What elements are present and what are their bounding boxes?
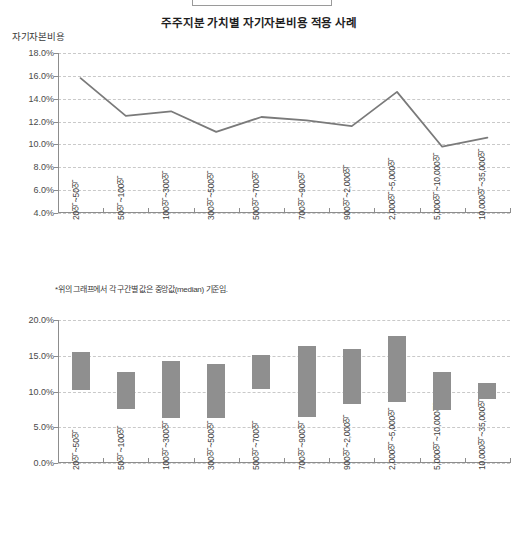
gridline (58, 356, 510, 357)
y-axis-tick-label: 12.0% (28, 117, 54, 127)
range-bar (298, 346, 316, 417)
gridline (58, 320, 510, 321)
range-bar (343, 349, 361, 404)
x-axis-tick-mark (329, 458, 330, 463)
x-axis-category-label: 50억~100억 (115, 425, 127, 470)
x-axis-category-label: 5,000억~10,000억 (431, 403, 443, 470)
x-axis-tick-mark (465, 458, 466, 463)
x-axis-category-label: 300억~500억 (205, 420, 217, 470)
y-axis-line (58, 320, 59, 463)
x-axis-category-label: 500억~700억 (250, 420, 262, 470)
y-axis-tick-label: 14.0% (28, 94, 54, 104)
range-bar (433, 372, 451, 410)
y-axis-tick-label: 10.0% (28, 387, 54, 397)
x-axis-tick-mark (510, 458, 511, 463)
line-chart-plot-area: 18.0%16.0%14.0%12.0%10.0%8.0%6.0%4.0%20억… (58, 53, 510, 213)
line-chart: 18.0%16.0%14.0%12.0%10.0%8.0%6.0%4.0%20억… (58, 53, 510, 213)
x-axis-category-label: 700억~900억 (296, 420, 308, 470)
x-axis-tick-mark (239, 458, 240, 463)
x-axis-tick-mark (374, 458, 375, 463)
x-axis-category-label: 900억~2,000억 (341, 414, 353, 470)
range-bar (478, 383, 496, 399)
y-axis-tick-label: 20.0% (28, 315, 54, 325)
y-axis-tick-label: 0.0% (33, 458, 54, 468)
range-bar (207, 364, 225, 418)
y-axis-tick-label: 4.0% (33, 208, 54, 218)
x-axis-category-label: 10,000억~35,000억 (476, 398, 488, 470)
range-bar (388, 336, 406, 402)
x-axis-category-label: 100억~300억 (160, 420, 172, 470)
clipped-top-box (192, 0, 332, 6)
range-bar (252, 355, 270, 389)
y-axis-tick-label: 5.0% (33, 422, 54, 432)
footnote-text: *위의 그래프에서 각 구간별 값은 중앙값(median) 기준임. (55, 283, 228, 294)
x-axis-category-label: 20억~50억 (70, 430, 82, 470)
y-axis-tick-label: 6.0% (33, 185, 54, 195)
range-bar (117, 372, 135, 408)
y-axis-tick-label: 18.0% (28, 48, 54, 58)
y-axis-tick-label: 15.0% (28, 351, 54, 361)
range-bar (162, 361, 180, 417)
y-axis-tick-label: 8.0% (33, 162, 54, 172)
y-axis-tick-mark (54, 463, 58, 464)
x-axis-tick-mark (103, 458, 104, 463)
y-axis-tick-mark (54, 213, 58, 214)
range-bar (72, 352, 90, 390)
x-axis-tick-mark (58, 458, 59, 463)
line-series-path (58, 53, 510, 213)
x-axis-category-label: 2,000억~5,000억 (386, 407, 398, 470)
x-axis-tick-mark (148, 458, 149, 463)
range-bar-chart-plot-area: 20.0%15.0%10.0%5.0%0.0%20억~50억50억~100억10… (58, 320, 510, 463)
page-title: 주주지분 가치별 자기자본비용 적용 사례 (0, 14, 518, 30)
x-axis-tick-mark (420, 458, 421, 463)
x-axis-tick-mark (284, 458, 285, 463)
y-axis-tick-label: 16.0% (28, 71, 54, 81)
y-axis-tick-label: 10.0% (28, 139, 54, 149)
x-axis-tick-mark (194, 458, 195, 463)
chart-page: 주주지분 가치별 자기자본비용 적용 사례 자기자본비용 18.0%16.0%1… (0, 0, 518, 538)
x-axis-tick-mark (510, 208, 511, 213)
line-chart-y-axis-title: 자기자본비용 (12, 29, 64, 43)
range-bar-chart: 20.0%15.0%10.0%5.0%0.0%20억~50억50억~100억10… (58, 320, 510, 463)
